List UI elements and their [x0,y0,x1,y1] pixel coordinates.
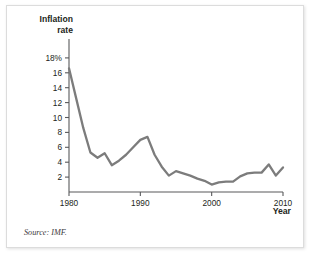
x-tick-label: 1980 [60,198,79,208]
y-tick-label: 4 [57,157,62,167]
figure-panel: Inflation rate 24681012141618% 198019902… [6,5,304,248]
y-tick-marks [65,58,69,177]
chart-axes [69,39,283,192]
y-tick-label: 12 [53,98,63,108]
source-note: Source: IMF. [24,228,67,237]
y-tick-label: 14 [53,83,63,93]
y-tick-label: 18% [45,53,62,63]
x-axis-title: Year [229,206,291,216]
x-tick-marks [69,192,283,196]
y-tick-label: 10 [53,113,63,123]
y-tick-label: 16 [53,68,63,78]
inflation-rate-line [69,68,283,184]
y-tick-label: 6 [57,142,62,152]
data-series-group [69,68,283,184]
y-tick-labels: 24681012141618% [45,53,62,182]
x-tick-label: 1990 [131,198,150,208]
y-tick-label: 8 [57,127,62,137]
y-tick-label: 2 [57,172,62,182]
x-tick-label: 2000 [202,198,221,208]
